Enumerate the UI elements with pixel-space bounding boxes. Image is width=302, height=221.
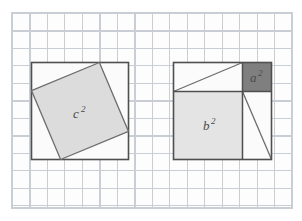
label-b-squared-base: b [203,118,210,133]
ab-squares-panel: b 2 a 2 [174,63,272,160]
label-c-squared-base: c [73,106,79,121]
label-a-squared-exponent: 2 [258,68,263,78]
diagram-canvas: c 2 b 2 [0,0,302,221]
label-b-squared-exponent: 2 [211,116,216,126]
square-a [243,63,272,92]
label-c-squared-exponent: 2 [81,104,86,114]
figures-layer: c 2 b 2 [0,0,302,221]
c-square-panel: c 2 [32,63,129,160]
label-a-squared-base: a [250,70,257,85]
